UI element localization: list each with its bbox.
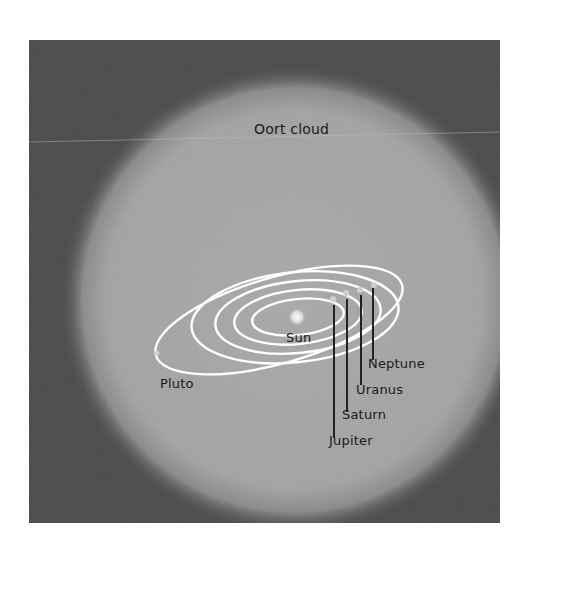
- label-pluto: Pluto: [160, 376, 194, 391]
- planet-neptune-marker: [371, 282, 377, 288]
- sun: [288, 308, 306, 326]
- diagram-graphic: [29, 40, 500, 523]
- label-uranus: Uranus: [356, 382, 403, 397]
- label-neptune: Neptune: [368, 356, 425, 371]
- planet-jupiter-marker: [330, 296, 336, 302]
- label-oort-cloud: Oort cloud: [254, 121, 329, 137]
- label-jupiter: Jupiter: [329, 433, 373, 448]
- label-sun: Sun: [286, 330, 311, 345]
- planet-pluto-marker: [155, 351, 160, 356]
- oort-cloud-diagram: Oort cloud Sun Neptune Uranus Saturn Jup…: [29, 40, 500, 523]
- planet-saturn-marker: [343, 290, 349, 296]
- planet-uranus-marker: [357, 287, 363, 293]
- label-saturn: Saturn: [342, 407, 386, 422]
